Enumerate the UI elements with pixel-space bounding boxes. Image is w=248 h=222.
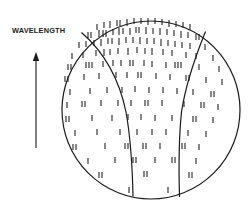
diagram-canvas — [0, 0, 248, 222]
axis-arrow-group — [33, 52, 39, 148]
figure-root: WAVELENGTH — [0, 0, 248, 222]
field-circle-outline — [62, 21, 240, 199]
wavelength-arrow-head — [33, 52, 39, 61]
left-divider — [82, 33, 134, 197]
spectral-tick-group — [65, 18, 222, 193]
